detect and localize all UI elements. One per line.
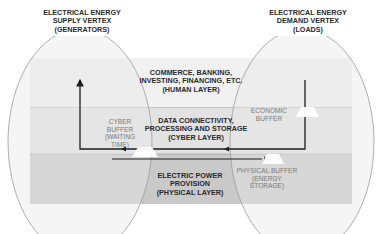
supply-vertex-line-3: (GENERATORS) — [22, 26, 142, 34]
cyber-buffer-line-4: TIME) — [100, 141, 140, 149]
human-layer-line-3: (HUMAN LAYER) — [131, 86, 251, 94]
demand-vertex-title: ELECTRICAL ENERGY DEMAND VERTEX (LOADS) — [248, 9, 368, 34]
cyber-layer-line-3: (CYBER LAYER) — [136, 134, 256, 142]
physical-layer-line-3: (PHYSICAL LAYER) — [140, 189, 240, 197]
physical-layer-label: ELECTRIC POWER PROVISION (PHYSICAL LAYER… — [140, 172, 240, 197]
cyber-buffer-line-3: (WAITING — [100, 133, 140, 141]
physical-buffer-line-2: (ENERGY — [232, 175, 302, 183]
cyber-buffer-line-2: BUFFER — [100, 126, 140, 134]
supply-vertex-title: ELECTRICAL ENERGY SUPPLY VERTEX (GENERAT… — [22, 9, 142, 34]
economic-buffer-label: ECONOMIC BUFFER — [244, 107, 294, 122]
cyber-layer-label: DATA CONNECTIVITY, PROCESSING AND STORAG… — [136, 117, 256, 142]
economic-buffer-line-2: BUFFER — [244, 115, 294, 123]
human-layer-label: COMMERCE, BANKING, INVESTING, FINANCING,… — [131, 69, 251, 94]
physical-buffer-line-1: PHYSICAL BUFFER — [232, 167, 302, 175]
physical-buffer-line-3: STORAGE) — [232, 182, 302, 190]
economic-buffer-line-1: ECONOMIC — [244, 107, 294, 115]
demand-vertex-line-3: (LOADS) — [248, 26, 368, 34]
physical-buffer-label: PHYSICAL BUFFER (ENERGY STORAGE) — [232, 167, 302, 190]
diagram-canvas: ELECTRICAL ENERGY SUPPLY VERTEX (GENERAT… — [0, 0, 382, 234]
cyber-buffer-line-1: CYBER — [100, 118, 140, 126]
cyber-buffer-label: CYBER BUFFER (WAITING TIME) — [100, 118, 140, 148]
